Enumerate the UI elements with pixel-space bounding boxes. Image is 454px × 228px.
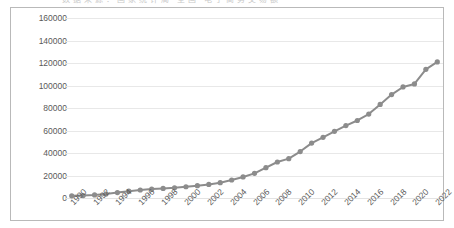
- data-point-marker: [343, 123, 348, 128]
- data-point-marker: [298, 149, 303, 154]
- data-point-marker: [252, 171, 257, 176]
- data-point-marker: [275, 159, 280, 164]
- data-point-marker: [423, 67, 428, 72]
- y-axis-tick-label: 80000: [43, 104, 67, 113]
- data-point-marker: [138, 187, 143, 192]
- data-point-marker: [378, 102, 383, 107]
- x-axis-labels: 1990199219941996199820002002200420062008…: [66, 198, 443, 228]
- chart-screenshot: 数据来源：国家统计局 全国 电子商务交易额 160000140000120000…: [0, 0, 454, 228]
- data-point-marker: [389, 92, 394, 97]
- data-point-marker: [309, 141, 314, 146]
- clipped-header-label: 数据来源：国家统计局 全国 电子商务交易额: [62, 0, 281, 4]
- data-point-marker: [206, 182, 211, 187]
- y-axis-tick-label: 120000: [39, 59, 67, 68]
- y-axis-tick-label: 40000: [43, 149, 67, 158]
- chart-frame: 1600001400001200001000008000060000400002…: [10, 7, 444, 221]
- y-axis-tick-label: 100000: [39, 81, 67, 90]
- data-point-marker: [263, 165, 268, 170]
- data-point-marker: [435, 59, 440, 64]
- data-point-marker: [332, 129, 337, 134]
- y-axis-tick-label: 60000: [43, 126, 67, 135]
- data-point-marker: [355, 118, 360, 123]
- clipped-header-text: 数据来源：国家统计局 全国 电子商务交易额: [0, 0, 454, 7]
- data-point-marker: [366, 111, 371, 116]
- data-point-marker: [286, 156, 291, 161]
- y-axis-tick-label: 140000: [39, 36, 67, 45]
- data-point-marker: [183, 184, 188, 189]
- y-axis-labels: 1600001400001200001000008000060000400002…: [23, 18, 67, 198]
- y-axis-tick-label: 160000: [39, 14, 67, 23]
- data-point-marker: [240, 174, 245, 179]
- data-point-marker: [320, 135, 325, 140]
- line-series: [66, 18, 443, 198]
- data-point-marker: [218, 180, 223, 185]
- data-point-marker: [161, 186, 166, 191]
- plot-area: [66, 18, 443, 198]
- data-point-marker: [229, 177, 234, 182]
- y-axis-tick-label: 20000: [43, 171, 67, 180]
- data-point-marker: [400, 84, 405, 89]
- data-point-marker: [412, 81, 417, 86]
